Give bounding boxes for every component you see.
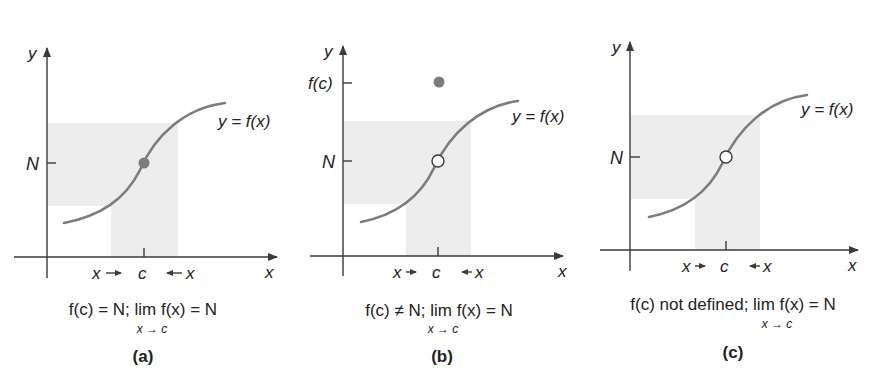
x-axis-label: x bbox=[264, 263, 274, 282]
curve-label: y = f(x) bbox=[217, 112, 270, 131]
n-label: N bbox=[322, 152, 336, 172]
caption-main: f(c) = N; lim f(x) = N bbox=[69, 300, 217, 319]
open-point bbox=[432, 155, 444, 167]
caption-sub: x → c bbox=[427, 322, 459, 336]
n-label: N bbox=[610, 148, 624, 168]
panel-label: (a) bbox=[133, 347, 154, 366]
caption-sub: x → c bbox=[761, 317, 793, 331]
approach-right-label: x bbox=[185, 264, 195, 283]
approach-right-label: x bbox=[762, 257, 772, 276]
shaded-band-vertical bbox=[111, 123, 178, 257]
panel-b: y x f(c) N y = f(x) c x x f(c) ≠ N; lim … bbox=[308, 42, 567, 366]
y-axis-label: y bbox=[323, 42, 334, 61]
limits-figure: y x N y = f(x) c x x f(c) = N; lim f(x) … bbox=[0, 0, 891, 391]
panel-label: (c) bbox=[723, 343, 744, 362]
curve-label: y = f(x) bbox=[800, 100, 853, 119]
isolated-fc-point bbox=[434, 77, 445, 88]
x-axis-label: x bbox=[557, 262, 567, 281]
approach-right-label: x bbox=[474, 263, 484, 282]
fc-label: f(c) bbox=[308, 74, 333, 93]
x-axis-label: x bbox=[847, 256, 857, 275]
panel-c: y x N y = f(x) c x x f(c) not defined; l… bbox=[600, 38, 858, 362]
c-label: c bbox=[432, 263, 441, 282]
curve-label: y = f(x) bbox=[511, 107, 564, 126]
shaded-band-vertical bbox=[695, 115, 760, 250]
c-label: c bbox=[720, 257, 729, 276]
filled-point bbox=[139, 158, 150, 169]
caption-main: f(c) not defined; lim f(x) = N bbox=[630, 295, 835, 314]
c-label: c bbox=[138, 264, 147, 283]
shaded-band-vertical bbox=[406, 121, 471, 256]
approach-left-label: x bbox=[392, 263, 402, 282]
approach-left-label: x bbox=[681, 257, 691, 276]
open-point bbox=[720, 151, 732, 163]
y-axis-label: y bbox=[611, 38, 622, 57]
panel-label: (b) bbox=[431, 347, 453, 366]
n-label: N bbox=[26, 154, 40, 174]
y-axis-label: y bbox=[27, 44, 38, 63]
caption-main: f(c) ≠ N; lim f(x) = N bbox=[365, 301, 513, 320]
approach-left-label: x bbox=[91, 264, 101, 283]
panel-a: y x N y = f(x) c x x f(c) = N; lim f(x) … bbox=[14, 44, 277, 366]
caption-sub: x → c bbox=[136, 322, 168, 336]
